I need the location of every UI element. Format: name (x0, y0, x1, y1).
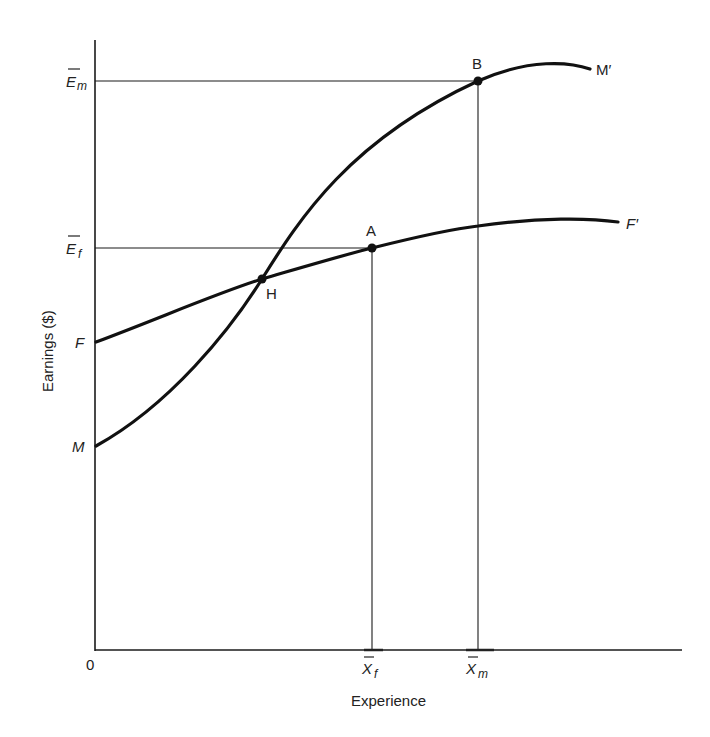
label-m-prime: M′ (596, 61, 611, 78)
x-tick-xm: X m (465, 650, 494, 681)
x-tick-xf: X f (361, 650, 383, 681)
label-ef: E (66, 240, 77, 257)
label-origin: 0 (86, 656, 94, 673)
point-h (258, 275, 267, 284)
label-em-sub: m (77, 79, 87, 93)
y-tick-ef: E f (66, 236, 83, 261)
label-f-intercept: F (75, 334, 85, 351)
point-a (368, 244, 377, 253)
curve-f (96, 219, 618, 342)
earnings-experience-chart: H A B M′ F′ E m E f F M 0 X f X m Experi… (0, 0, 710, 737)
label-h: H (266, 285, 277, 302)
label-em: E (66, 73, 77, 90)
label-ef-sub: f (78, 247, 83, 261)
label-xf-sub: f (374, 667, 379, 681)
label-xm-sub: m (478, 667, 488, 681)
label-m-intercept: M (72, 438, 85, 455)
label-xm: X (465, 660, 477, 677)
label-xf: X (361, 660, 373, 677)
x-axis-title: Experience (351, 692, 426, 709)
y-tick-em: E m (66, 69, 87, 93)
label-f-prime: F′ (626, 215, 639, 232)
point-b (474, 77, 483, 86)
label-b: B (472, 55, 482, 72)
label-a: A (366, 222, 376, 239)
y-axis-title: Earnings ($) (39, 310, 56, 392)
